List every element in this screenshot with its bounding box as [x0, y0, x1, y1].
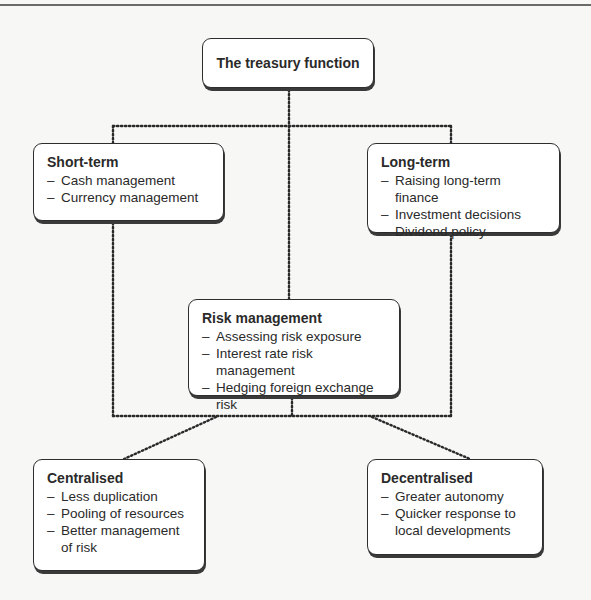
node-title: Decentralised [381, 470, 530, 487]
list-item: Currency management [47, 189, 211, 206]
node-list: Greater autonomy Quicker response to loc… [381, 488, 530, 539]
node-list: Cash management Currency management [47, 172, 211, 206]
list-item: Dividend policy [381, 223, 547, 240]
long-term-node: Long-term Raising long-term finance Inve… [367, 143, 560, 233]
node-title: The treasury function [216, 55, 359, 72]
node-list: Raising long-term finance Investment dec… [381, 172, 547, 240]
list-item: Interest rate risk management [202, 345, 387, 379]
node-title: Risk management [202, 310, 387, 327]
decentralised-node: Decentralised Greater autonomy Quicker r… [367, 459, 543, 555]
list-item: Less duplication [47, 488, 192, 505]
list-item: Better management of risk [47, 522, 192, 556]
list-item: Hedging foreign exchange risk [202, 379, 387, 413]
node-list: Assessing risk exposure Interest rate ri… [202, 328, 387, 413]
risk-management-node: Risk management Assessing risk exposure … [188, 299, 400, 396]
node-title: Long-term [381, 154, 547, 171]
node-list: Less duplication Pooling of resources Be… [47, 488, 192, 556]
list-item: Raising long-term finance [381, 172, 547, 206]
list-item: Greater autonomy [381, 488, 530, 505]
node-title: Centralised [47, 470, 192, 487]
treasury-function-node: The treasury function [202, 38, 374, 88]
list-item: Pooling of resources [47, 505, 192, 522]
list-item: Investment decisions [381, 206, 547, 223]
short-term-node: Short-term Cash management Currency mana… [33, 143, 224, 221]
centralised-node: Centralised Less duplication Pooling of … [33, 459, 205, 571]
list-item: Cash management [47, 172, 211, 189]
list-item: Assessing risk exposure [202, 328, 387, 345]
node-title: Short-term [47, 154, 211, 171]
list-item: Quicker response to local developments [381, 505, 530, 539]
